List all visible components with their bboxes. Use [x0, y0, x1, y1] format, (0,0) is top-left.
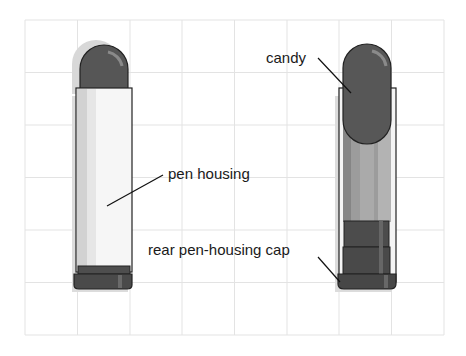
assembled-pen: [72, 40, 132, 292]
rear-cap-left: [74, 266, 132, 289]
candy-tip: [80, 45, 128, 92]
cutaway-pen: [335, 44, 396, 292]
label-candy: candy: [266, 49, 306, 66]
label-rear-cap: rear pen-housing cap: [148, 241, 290, 258]
rear-pen-housing-cap: [338, 221, 396, 289]
label-pen-housing: pen housing: [168, 165, 250, 182]
pen-housing: [76, 88, 132, 272]
candy-pen-diagram: candy pen housing rear pen-housing cap: [0, 0, 466, 356]
candy: [343, 44, 391, 144]
